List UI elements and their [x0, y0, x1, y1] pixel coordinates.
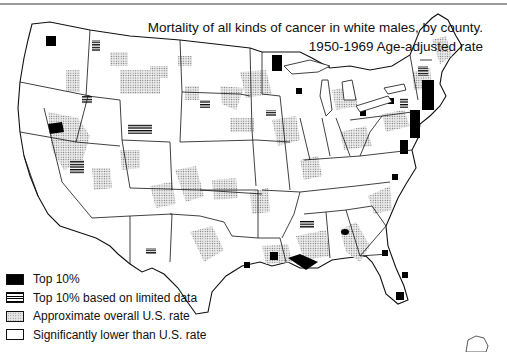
corner-map-fragment — [466, 336, 488, 352]
solid-black-swatch-icon — [6, 274, 24, 285]
legend-label: Approximate overall U.S. rate — [33, 307, 190, 326]
stipple-swatch-icon — [6, 311, 24, 322]
title-line-2: 1950-1969 Age-adjusted rate — [148, 37, 483, 56]
legend-label: Top 10% — [33, 270, 80, 289]
horizontal-lines-swatch-icon — [6, 292, 24, 303]
legend-item-lower: Significantly lower than U.S. rate — [6, 326, 206, 345]
legend-item-top10: Top 10% — [6, 270, 206, 289]
legend: Top 10% Top 10% based on limited data Ap… — [6, 270, 206, 344]
legend-item-approx-us: Approximate overall U.S. rate — [6, 307, 206, 326]
map-title: Mortality of all kinds of cancer in whit… — [148, 18, 483, 56]
legend-label: Significantly lower than U.S. rate — [33, 326, 206, 345]
white-swatch-icon — [6, 329, 24, 340]
title-line-1: Mortality of all kinds of cancer in whit… — [148, 20, 483, 35]
legend-label: Top 10% based on limited data — [33, 289, 197, 308]
us-outline — [18, 14, 462, 314]
legend-item-top10-limited: Top 10% based on limited data — [6, 289, 206, 308]
